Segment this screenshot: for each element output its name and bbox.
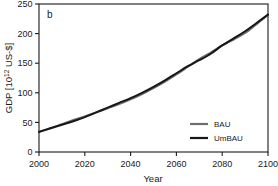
y-tick-label: 0 xyxy=(27,147,32,157)
y-tick-label: 200 xyxy=(17,29,32,39)
y-axis-tick-labels: 050100150200250 xyxy=(17,0,32,157)
x-tick-label: 2080 xyxy=(212,159,232,169)
y-tick-label: 150 xyxy=(17,58,32,68)
y-axis-title: GDP [1012 US-$] xyxy=(3,43,15,113)
plot-area-background xyxy=(39,4,268,152)
legend-label-bau: BAU xyxy=(214,120,231,129)
y-axis-title-tail: US-$] xyxy=(3,43,14,70)
x-tick-label: 2060 xyxy=(166,159,186,169)
gdp-projection-figure: 050100150200250 200020202040206020802100… xyxy=(0,0,278,186)
y-axis-title-base: GDP [10 xyxy=(3,77,14,113)
x-axis-title: Year xyxy=(143,173,162,184)
y-axis-ticks xyxy=(35,4,39,152)
x-axis-tick-labels: 200020202040206020802100 xyxy=(29,159,278,169)
x-tick-label: 2100 xyxy=(258,159,278,169)
panel-label: b xyxy=(47,9,53,20)
y-tick-label: 50 xyxy=(22,118,32,128)
y-tick-label: 100 xyxy=(17,88,32,98)
x-tick-label: 2040 xyxy=(121,159,141,169)
legend-label-umbau: UmBAU xyxy=(214,134,243,143)
x-tick-label: 2000 xyxy=(29,159,49,169)
chart-canvas: 050100150200250 200020202040206020802100… xyxy=(0,0,278,186)
y-tick-label: 250 xyxy=(17,0,32,9)
svg-text:GDP [1012 US-$]: GDP [1012 US-$] xyxy=(3,43,15,113)
x-axis-ticks xyxy=(39,152,268,156)
x-tick-label: 2020 xyxy=(75,159,95,169)
